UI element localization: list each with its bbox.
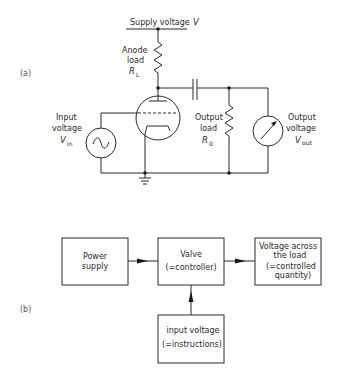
svg-text:Voltage across: Voltage across (259, 242, 317, 251)
input-label-line1: Input (56, 113, 77, 122)
arrow-power-to-valve (128, 259, 158, 264)
anode-resistor-icon (154, 29, 162, 88)
triode-valve-icon (136, 88, 180, 140)
ground-icon (139, 173, 151, 184)
svg-text:input voltage: input voltage (166, 326, 219, 335)
input-label-line2: voltage (52, 124, 82, 133)
supply-rail (126, 27, 187, 31)
output-resistor-icon (225, 88, 233, 173)
input-symbol-sub: in (67, 140, 73, 147)
part-b-label: (b) (20, 305, 31, 314)
figure: (a) Supply voltage V Anode load R L (0, 0, 337, 376)
output-load-sub: 0 (209, 140, 213, 147)
output-voltage-line1: Output (288, 113, 316, 122)
svg-text:quantity): quantity) (275, 271, 311, 280)
coupling-capacitor-icon (193, 79, 197, 100)
supply-symbol: V (193, 17, 200, 27)
part-a-label: (a) (20, 69, 31, 78)
output-voltage-sub: out (302, 139, 312, 146)
output-load-line1: Output (195, 113, 223, 122)
valve-block: Valve (=controller) (158, 238, 224, 285)
input-voltage-block: input voltage (=instructions) (158, 315, 224, 363)
anode-label-line2: load (127, 56, 144, 65)
ac-source-icon (86, 113, 116, 173)
anode-label-line1: Anode (122, 46, 148, 55)
power-supply-block: Power supply (62, 238, 128, 285)
output-voltage-symbol: V (295, 135, 302, 145)
input-symbol: V (60, 135, 67, 145)
anode-symbol: R (129, 66, 135, 76)
svg-text:Power: Power (83, 252, 108, 261)
voltmeter-icon (253, 88, 283, 173)
svg-text:the load: the load (274, 251, 307, 260)
anode-symbol-sub: L (136, 71, 140, 78)
svg-text:Valve: Valve (180, 250, 202, 259)
output-voltage-line2: voltage (286, 124, 316, 133)
output-load-symbol: R (202, 135, 208, 145)
svg-text:(=instructions): (=instructions) (162, 340, 222, 349)
supply-label: Supply voltage (130, 18, 190, 27)
svg-text:(=controller): (=controller) (165, 263, 216, 272)
svg-text:supply: supply (82, 262, 109, 271)
arrow-valve-to-output (224, 259, 255, 264)
output-load-line2: load (200, 124, 217, 133)
arrow-input-to-valve (189, 285, 194, 315)
controlled-quantity-block: Voltage across the load (=controlled qua… (255, 238, 321, 285)
svg-text:(=controlled: (=controlled (266, 262, 316, 271)
